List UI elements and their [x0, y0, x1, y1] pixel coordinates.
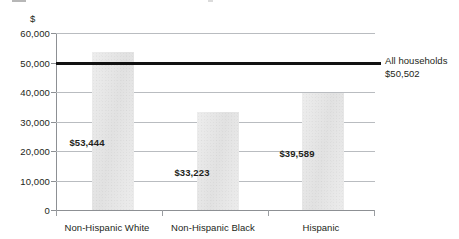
y-tick-label-20000: 20,000	[20, 146, 50, 157]
y-tick-label-40000: 40,000	[20, 87, 50, 98]
all-households-annotation-label: All households	[385, 55, 448, 68]
bar-value-non-hispanic-white: $53,444	[57, 137, 117, 148]
x-category-label-non-hispanic-white: Non-Hispanic White	[52, 222, 162, 233]
y-tick-label-0: 0	[45, 205, 50, 216]
gridline-60000	[56, 33, 375, 34]
x-tick-mark-1	[162, 210, 163, 216]
all-households-annotation-value: $50,502	[385, 68, 448, 81]
y-tick-label-60000: 60,000	[20, 28, 50, 39]
plot-area	[56, 33, 375, 210]
all-households-reference-line	[56, 62, 381, 65]
cropped-title-fragment-right	[208, 0, 213, 2]
x-category-label-non-hispanic-black: Non-Hispanic Black	[158, 222, 268, 233]
all-households-annotation: All households $50,502	[385, 55, 448, 80]
bar-non-hispanic-black	[197, 112, 239, 210]
y-tick-label-30000: 30,000	[20, 117, 50, 128]
y-axis-labels: 60,000 50,000 40,000 30,000 20,000 10,00…	[0, 0, 50, 239]
x-tick-mark-left	[56, 210, 57, 216]
bar-non-hispanic-white	[92, 52, 134, 210]
x-tick-mark-2	[268, 210, 269, 216]
x-axis-baseline	[56, 210, 375, 211]
bar-value-non-hispanic-black: $33,223	[162, 167, 222, 178]
bar-chart: $ 60,000 50,000 40,000 30,000 20,000 10,…	[0, 0, 459, 239]
y-tick-label-50000: 50,000	[20, 58, 50, 69]
x-category-label-hispanic: Hispanic	[266, 222, 376, 233]
bar-value-hispanic: $39,589	[267, 148, 327, 159]
x-tick-mark-right	[374, 210, 375, 216]
y-tick-label-10000: 10,000	[20, 176, 50, 187]
